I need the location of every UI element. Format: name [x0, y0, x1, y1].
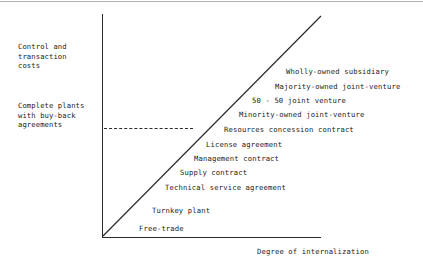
mode-label-free-trade: Free-trade: [139, 225, 184, 233]
mode-label-technical-service-agreement: Technical service agreement: [165, 184, 286, 192]
page-top-rule: [0, 1, 423, 2]
y-axis-annotation-complete-plants: Complete plants with buy-back agreements: [18, 101, 84, 130]
mode-label-wholly-owned-subsidiary: Wholly-owned subsidiary: [286, 68, 389, 76]
internalization-trend-line: [0, 0, 423, 263]
y-axis-line: [102, 14, 103, 238]
y-axis-annotation-control-costs: Control and transaction costs: [18, 42, 67, 71]
internalization-diagram: Control and transaction costs Complete p…: [0, 0, 423, 263]
buy-back-threshold-dashed-line: [104, 128, 193, 129]
mode-label-supply-contract: Supply contract: [180, 169, 247, 177]
mode-label-turnkey-plant: Turnkey plant: [152, 207, 210, 215]
mode-label-management-contract: Management contract: [194, 155, 279, 163]
x-axis-line: [102, 237, 321, 238]
mode-label-resources-concession-contract: Resources concession contract: [224, 126, 354, 134]
x-axis-caption: Degree of internalization: [257, 247, 369, 256]
mode-label-license-agreement: License agreement: [206, 141, 282, 149]
mode-label-50-50-joint-venture: 50 - 50 joint venture: [252, 97, 346, 105]
mode-label-majority-owned-joint-venture: Majority-owned joint-venture: [275, 83, 400, 91]
mode-label-minority-owned-joint-venture: Minority-owned joint-venture: [239, 111, 364, 119]
